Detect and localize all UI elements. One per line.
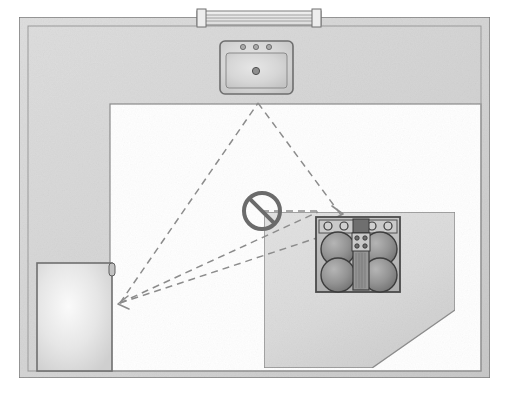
cooktop — [316, 217, 400, 292]
cooktop-knob-icon[interactable] — [340, 222, 348, 230]
floor-plan-canvas — [0, 0, 508, 394]
sink — [220, 41, 293, 94]
cooktop-center-control-icon[interactable] — [363, 244, 367, 248]
cooktop-center-header — [353, 219, 369, 233]
kitchen-floor-plan — [0, 0, 508, 394]
cooktop-knob-icon[interactable] — [384, 222, 392, 230]
cooktop-center-control-icon[interactable] — [363, 236, 367, 240]
faucet-hole-icon — [240, 44, 245, 49]
refrigerator-body — [37, 263, 112, 371]
window — [197, 9, 321, 27]
faucet-hole-icon — [266, 44, 271, 49]
refrigerator-handle — [109, 263, 115, 276]
window-mullion-left — [197, 9, 206, 27]
refrigerator — [37, 263, 115, 371]
window-mullion-right — [312, 9, 321, 27]
cooktop-center-control-icon[interactable] — [355, 244, 359, 248]
cooktop-knob-icon[interactable] — [324, 222, 332, 230]
cooktop-center-control-panel — [352, 233, 370, 251]
faucet-hole-icon — [253, 44, 258, 49]
cooktop-center-control-icon[interactable] — [355, 236, 359, 240]
cooktop-burner-icon[interactable] — [321, 258, 355, 292]
sink-drain-icon — [252, 67, 259, 74]
